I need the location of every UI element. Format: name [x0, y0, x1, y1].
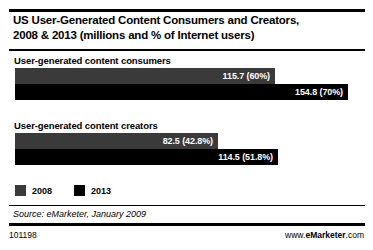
legend-label-2013: 2013	[91, 186, 111, 196]
bar-group-label-creators: User-generated content creators	[14, 120, 158, 131]
source-divider-rule	[9, 205, 365, 206]
url-brand: eMarketer	[305, 230, 345, 240]
bar-value-creators-2013: 114.5 (51.8%)	[218, 152, 273, 162]
bar-value-consumers-2013: 154.8 (70%)	[295, 87, 343, 97]
legend-item-2013: 2013	[74, 185, 111, 196]
bar-value-consumers-2008: 115.7 (60%)	[223, 71, 270, 81]
bar-creators-2013: 114.5 (51.8%)	[15, 149, 278, 165]
chart-title: US User-Generated Content Consumers and …	[13, 13, 361, 43]
source-note: Source: eMarketer, January 2009	[13, 209, 146, 219]
legend-item-2008: 2008	[15, 185, 52, 196]
title-divider-rule	[9, 49, 365, 51]
bar-value-creators-2008: 82.5 (42.8%)	[163, 136, 213, 146]
legend-swatch-2013-icon	[74, 185, 85, 196]
bar-consumers-2013: 154.8 (70%)	[15, 84, 348, 100]
legend-swatch-2008-icon	[15, 185, 26, 196]
chart-legend: 2008 2013	[15, 185, 133, 196]
bar-consumers-2008: 115.7 (60%)	[15, 68, 275, 84]
legend-label-2008: 2008	[32, 186, 52, 196]
top-rule	[9, 9, 365, 12]
url-prefix: www.	[285, 230, 305, 240]
chart-title-line-1: US User-Generated Content Consumers and …	[13, 13, 361, 28]
bar-group-label-consumers: User-generated content consumers	[14, 55, 171, 66]
bar-creators-2008: 82.5 (42.8%)	[15, 133, 218, 149]
emarketer-url: www.eMarketer.com	[285, 230, 364, 240]
footer-rule	[9, 223, 365, 226]
chart-title-line-2: 2008 & 2013 (millions and % of Internet …	[13, 28, 361, 43]
emarketer-chart-figure: US User-Generated Content Consumers and …	[0, 0, 373, 250]
url-suffix: .com	[346, 230, 364, 240]
chart-id-number: 101198	[9, 230, 37, 240]
